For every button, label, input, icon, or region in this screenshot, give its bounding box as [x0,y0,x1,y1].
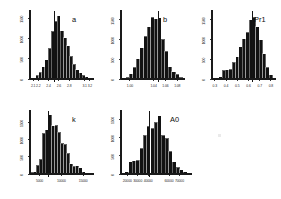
histogram-bar [246,32,249,79]
y-tick-label: 500 [112,58,116,64]
x-tick-label: 0.8 [269,84,274,88]
x-tick-label: 2.2 [36,84,41,88]
panel-pr1-plot: 0500100015000.30.40.50.60.70.8Pr1 [192,6,280,101]
histogram-bar [132,161,136,174]
histogram-bar [143,135,147,174]
histogram-bar [39,159,42,174]
panel-a-plot: 0500100015002.12.22.42.62.83.13.2a [10,6,98,101]
histogram-bar [165,138,169,174]
histogram-bar [36,75,39,79]
histogram-bar [60,31,63,79]
histogram-bar [76,166,79,174]
histogram-bar [169,151,173,174]
bars-group [122,17,182,79]
panel-k: 05001000150050001000015000k [10,106,98,196]
histogram-bar [165,51,169,79]
histogram-bar [158,116,162,174]
histogram-bar [70,164,73,174]
histogram-bar [161,135,165,174]
y-tick-label: 1000 [112,135,116,142]
histogram-bar [168,67,172,79]
panel-pr1: 0500100015000.30.40.50.60.70.8Pr1 [192,6,280,101]
histogram-bar [176,74,180,79]
histogram-bar [266,67,269,79]
histogram-bar [42,133,45,174]
y-tick-label: 0 [112,174,116,176]
histogram-bar [36,165,39,174]
histogram-bar [79,168,82,174]
x-tick-label: 3.1 [82,84,87,88]
x-tick-label: 0.4 [224,84,229,88]
x-tick-label: 40000 [144,179,153,183]
panel-label: a [72,15,77,24]
x-tick-label: 10000 [57,179,66,183]
x-tick-label: 70000 [175,179,184,183]
y-tick-label: 1500 [21,120,25,127]
histogram-bar [158,18,162,79]
histogram-bar [64,144,67,174]
y-tick-label: 0 [203,79,207,81]
histogram-bar [252,17,255,79]
x-tick-label: 1.04 [150,84,156,88]
histogram-bar [263,54,266,79]
histogram-bar [67,46,70,79]
x-tick-label: 20000 [123,179,132,183]
histogram-bar [76,70,79,79]
y-tick-label: 1000 [112,37,116,44]
histogram-bar [172,162,176,174]
panel-label: Pr1 [254,15,266,24]
histogram-bar [136,59,140,79]
y-tick-label: 1000 [203,37,207,44]
y-tick-label: 0 [112,79,116,81]
x-tick-label: 3.2 [88,84,93,88]
histogram-bar [67,153,70,174]
x-tick-label: 1.06 [162,84,168,88]
histogram-bar [57,16,60,79]
histogram-bar [151,17,155,79]
bars-group [121,116,190,174]
histogram-figure: 0500100015002.12.22.42.62.83.13.2a 05001… [0,0,281,199]
histogram-bar [140,148,144,174]
histogram-bar [45,130,48,174]
histogram-bar [42,67,45,79]
histogram-bar [48,48,51,79]
histogram-bar [259,40,262,79]
histogram-bar [151,128,155,174]
histogram-bar [269,75,272,79]
histogram-bar [51,31,54,79]
histogram-bar [172,72,176,79]
histogram-bar [222,70,225,79]
panel-b-plot: 0500100015001.001.041.061.08b [101,6,189,101]
y-tick-label: 500 [21,155,25,161]
histogram-bar [61,143,64,174]
histogram-bar [180,170,184,174]
histogram-bar [73,64,76,79]
panel-label: A0 [170,115,179,124]
histogram-bar [64,38,67,79]
x-tick-label: 2.1 [31,84,36,88]
panel-b: 0500100015001.001.041.061.08b [101,6,189,101]
y-tick-label: 1500 [112,117,116,124]
histogram-bar [154,19,158,79]
x-tick-label: 1.08 [174,84,180,88]
histogram-bar [232,62,235,79]
x-tick-label: 2.4 [46,84,51,88]
x-tick-label: 1.00 [127,84,133,88]
x-tick-label: 0.6 [246,84,251,88]
histogram-bar [225,70,228,79]
y-tick-label: 0 [21,174,25,176]
panel-a0: 0500100015002000030000400006000070000A0 [101,106,196,196]
y-tick-label: 1000 [21,36,25,43]
histogram-bar [147,27,151,79]
histogram-bar [52,126,55,174]
histogram-bar [140,48,144,79]
histogram-bar [144,36,148,79]
x-tick-label: 30000 [133,179,142,183]
y-tick-label: 1500 [112,17,116,24]
histogram-bar [129,162,133,174]
histogram-bar [229,69,232,79]
histogram-bar [161,39,165,79]
scan-artifact [218,134,221,137]
histogram-bar [55,125,58,174]
x-tick-label: 2.6 [57,84,62,88]
